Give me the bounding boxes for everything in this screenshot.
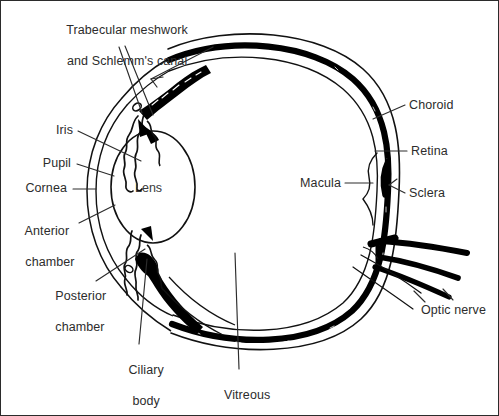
- label-retina: Retina: [411, 144, 448, 160]
- label-optic-nerve: Optic nerve: [421, 303, 486, 319]
- label-posterior-chamber-line2: chamber: [55, 320, 104, 334]
- leader-vitreous-cavity: [235, 253, 239, 369]
- label-trabecular-line2: and Schlemm's canal: [67, 54, 187, 68]
- label-ciliary-body-line1: Ciliary: [128, 363, 163, 377]
- label-vitreous-cavity-line1: Vitreous: [224, 388, 270, 402]
- label-anterior-chamber-line1: Anterior: [25, 224, 70, 238]
- label-pupil: Pupil: [7, 156, 71, 172]
- retina-inner-outline: [169, 57, 377, 330]
- label-lens: Lens: [135, 181, 162, 195]
- label-ciliary-body-line2: body: [132, 394, 160, 408]
- label-macula: Macula: [285, 176, 341, 192]
- sclera-outline: [168, 34, 400, 350]
- label-cornea: Cornea: [3, 181, 67, 197]
- ciliary-body: [124, 245, 235, 335]
- leader-pupil: [77, 164, 114, 176]
- label-posterior-chamber: Posterior chamber: [41, 273, 133, 351]
- label-ciliary-body: Ciliary body: [105, 347, 173, 416]
- label-vitreous-cavity: Vitreous cavity: [199, 372, 281, 416]
- choroid-retina-band: [169, 38, 388, 344]
- label-posterior-chamber-line1: Posterior: [55, 289, 106, 303]
- label-choroid: Choroid: [409, 98, 453, 114]
- label-anterior-chamber-line2: chamber: [25, 255, 74, 269]
- label-iris: Iris: [11, 123, 73, 139]
- eye-anatomy-figure: Trabecular meshwork and Schlemm's canal …: [0, 0, 499, 416]
- label-trabecular-line1: Trabecular meshwork: [66, 23, 188, 37]
- label-trabecular-meshwork: Trabecular meshwork and Schlemm's canal: [45, 7, 195, 85]
- label-sclera: Sclera: [409, 186, 445, 202]
- leader-sclera: [389, 185, 405, 193]
